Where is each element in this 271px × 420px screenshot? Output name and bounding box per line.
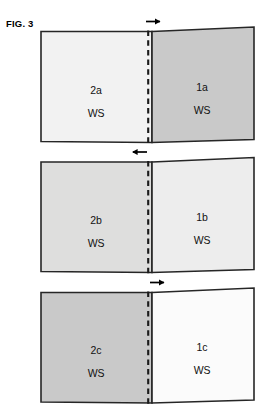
block-1c-sublabel: WS <box>176 365 228 377</box>
block-1b-sublabel: WS <box>176 235 228 247</box>
block-2a-label: 2a WS <box>70 73 122 131</box>
block-1a-id: 1a <box>176 82 228 94</box>
block-2a-id: 2a <box>70 85 122 97</box>
block-1a-sublabel: WS <box>176 105 228 117</box>
block-2c-sublabel: WS <box>70 368 122 380</box>
panel-c-arrow-right-icon <box>150 279 165 285</box>
figure-root: FIG. 3 <box>0 0 271 420</box>
panel-a-arrow-right-icon <box>146 18 161 24</box>
block-2a-sublabel: WS <box>70 108 122 120</box>
block-2b-id: 2b <box>70 215 122 227</box>
block-1c-label: 1c WS <box>176 330 228 388</box>
block-2b-label: 2b WS <box>70 203 122 261</box>
block-2c-id: 2c <box>70 345 122 357</box>
block-1b-id: 1b <box>176 212 228 224</box>
block-1a-label: 1a WS <box>176 70 228 128</box>
block-2b-sublabel: WS <box>70 238 122 250</box>
block-1b-label: 1b WS <box>176 200 228 258</box>
figure-drawing <box>0 0 271 420</box>
block-1c-id: 1c <box>176 342 228 354</box>
panel-b-arrow-left-icon <box>132 149 147 155</box>
block-2c-label: 2c WS <box>70 333 122 391</box>
